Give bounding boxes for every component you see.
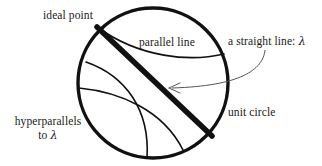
label-hyperparallels-line1: hyperparallels [15, 115, 82, 127]
label-straight-line-text: a straight line: [228, 35, 298, 47]
hyperbolic-geometry-diagram: ideal point parallel line a straight lin… [0, 0, 322, 166]
hyperparallel-arc-1 [86, 62, 147, 158]
lambda-symbol-hyperparallels: λ [50, 128, 57, 142]
label-unit-circle: unit circle [228, 106, 275, 120]
label-parallel-line: parallel line [139, 36, 195, 50]
lambda-symbol-straight-line: λ [298, 34, 305, 48]
label-ideal-point: ideal point [43, 9, 93, 23]
label-straight-line: a straight line: λ [228, 35, 306, 49]
label-hyperparallels: hyperparallelsto λ [5, 115, 91, 142]
label-hyperparallels-line2: to λ [5, 129, 91, 143]
label-hyperparallels-to: to [38, 129, 50, 141]
